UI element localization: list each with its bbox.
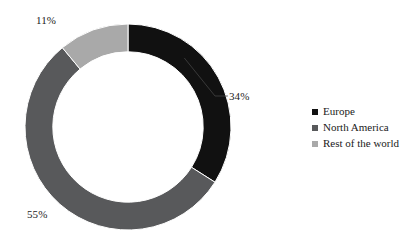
data-label-europe: 34% xyxy=(229,90,249,102)
donut-slice-group xyxy=(25,24,231,230)
legend-label-europe: Europe xyxy=(323,104,355,119)
donut-slice[interactable] xyxy=(128,24,231,182)
data-label-north-america: 55% xyxy=(27,208,47,220)
donut-chart-figure: 34% 55% 11% Europe North America Rest of… xyxy=(0,0,420,245)
legend-item-north-america[interactable]: North America xyxy=(312,120,416,135)
legend-item-rest-of-world[interactable]: Rest of the world xyxy=(312,136,416,151)
legend-item-europe[interactable]: Europe xyxy=(312,104,416,119)
chart-legend: Europe North America Rest of the world xyxy=(312,104,416,152)
legend-label-rest-of-world: Rest of the world xyxy=(323,136,399,151)
legend-swatch-icon-north-america xyxy=(312,125,318,131)
legend-swatch-icon-europe xyxy=(312,109,318,115)
legend-swatch-icon-rest-of-world xyxy=(312,141,318,147)
legend-label-north-america: North America xyxy=(323,120,389,135)
data-label-rest-of-world: 11% xyxy=(36,14,56,26)
